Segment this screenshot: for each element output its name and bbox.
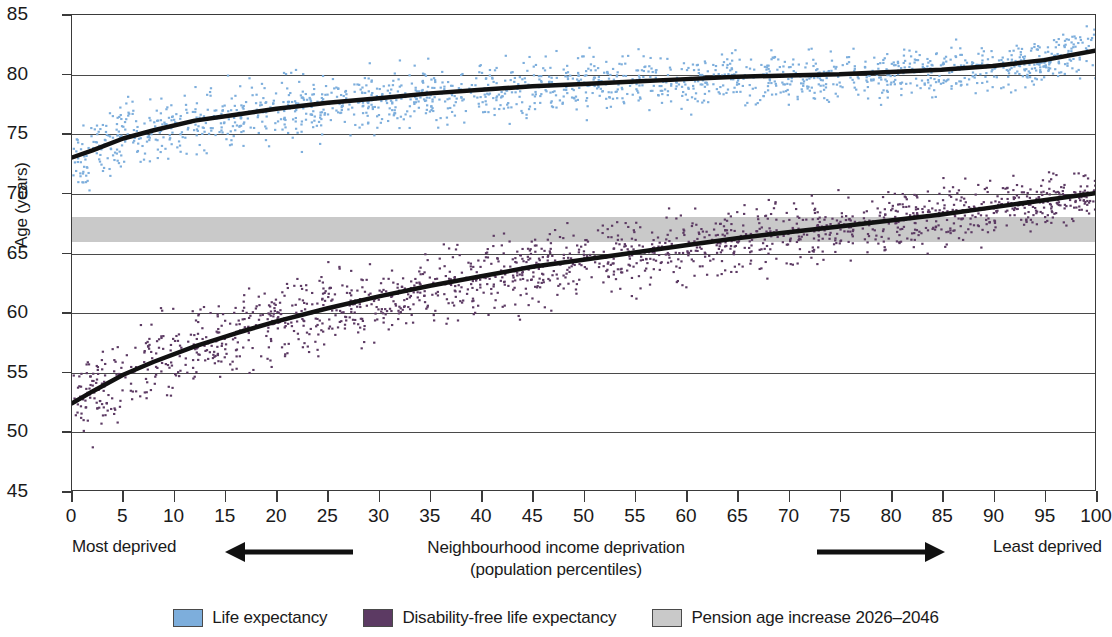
y-tick-mark	[62, 431, 71, 433]
x-axis-title-line1: Neighbourhood income deprivation	[427, 538, 684, 557]
y-tick-label: 70	[0, 183, 28, 202]
x-tick-mark	[891, 491, 893, 502]
y-tick-mark	[62, 133, 71, 135]
trend-lines	[72, 15, 1095, 490]
x-tick-mark	[737, 491, 739, 502]
x-tick-mark	[994, 491, 996, 502]
plot-area	[71, 14, 1096, 491]
y-tick-label: 65	[0, 243, 28, 262]
axis-label-least-deprived: Least deprived	[993, 537, 1102, 557]
legend-label: Disability-free life expectancy	[402, 608, 616, 628]
y-tick-label: 80	[0, 64, 28, 83]
x-tick-mark	[276, 491, 278, 502]
x-tick-mark	[122, 491, 124, 502]
x-tick-mark	[1045, 491, 1047, 502]
y-tick-mark	[62, 74, 71, 76]
legend-swatch	[173, 609, 203, 627]
life-expectancy-deprivation-chart: Age (years) 455055606570758085 051015202…	[0, 0, 1112, 637]
y-tick-mark	[62, 253, 71, 255]
y-tick-label: 60	[0, 302, 28, 321]
chart-legend: Life expectancyDisability-free life expe…	[0, 608, 1112, 628]
arrow-right-icon	[815, 540, 945, 564]
x-tick-mark	[327, 491, 329, 502]
x-tick-mark	[686, 491, 688, 502]
legend-item[interactable]: Disability-free life expectancy	[363, 608, 616, 628]
y-tick-label: 50	[0, 421, 28, 440]
legend-item[interactable]: Life expectancy	[173, 608, 327, 628]
x-axis-title: Neighbourhood income deprivation (popula…	[0, 537, 1112, 581]
y-tick-mark	[62, 312, 71, 314]
trend-line-disability-free-life-expectancy	[72, 193, 1095, 403]
x-tick-label: 100	[1066, 505, 1112, 527]
x-tick-mark	[635, 491, 637, 502]
legend-swatch	[652, 609, 682, 627]
x-tick-mark	[174, 491, 176, 502]
legend-swatch	[363, 609, 393, 627]
trend-line-life-expectancy	[72, 51, 1095, 158]
y-tick-label: 85	[0, 4, 28, 23]
x-tick-mark	[584, 491, 586, 502]
x-tick-mark	[532, 491, 534, 502]
x-tick-mark	[789, 491, 791, 502]
legend-label: Life expectancy	[212, 608, 327, 628]
y-tick-label: 45	[0, 481, 28, 500]
legend-label: Pension age increase 2026–2046	[691, 608, 938, 628]
x-tick-mark	[942, 491, 944, 502]
x-tick-mark	[1096, 491, 1098, 502]
y-tick-mark	[62, 372, 71, 374]
x-axis-title-line2: (population percentiles)	[470, 560, 642, 579]
x-tick-mark	[379, 491, 381, 502]
x-tick-mark	[481, 491, 483, 502]
legend-item[interactable]: Pension age increase 2026–2046	[652, 608, 938, 628]
y-tick-mark	[62, 14, 71, 16]
x-tick-mark	[71, 491, 73, 502]
x-tick-mark	[225, 491, 227, 502]
y-tick-mark	[62, 491, 71, 493]
y-tick-label: 75	[0, 123, 28, 142]
x-tick-mark	[840, 491, 842, 502]
x-tick-mark	[430, 491, 432, 502]
y-tick-mark	[62, 193, 71, 195]
y-tick-label: 55	[0, 362, 28, 381]
